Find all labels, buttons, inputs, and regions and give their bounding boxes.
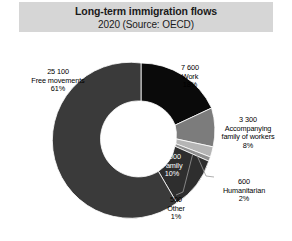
slice-percent-accompanying-family: 8% — [206, 142, 290, 151]
slice-label-family: 4 000 Family 10% — [150, 153, 194, 179]
slice-percent-humanitarian: 2% — [212, 195, 276, 204]
slice-label-other: 500 Other 1% — [154, 196, 198, 222]
slice-percent-family: 10% — [150, 170, 194, 179]
slice-percent-work: 18% — [160, 81, 220, 90]
slice-label-humanitarian: 600 Humanitarian 2% — [212, 178, 276, 204]
chart-figure: Long-term immigration flows 2020 (Source… — [0, 0, 292, 241]
slice-label-accompanying-family: 3 300 Accompanying family of workers 8% — [206, 116, 290, 150]
slice-label-free-movements: 25 100 Free movements 61% — [12, 68, 104, 94]
slice-percent-other: 1% — [154, 213, 198, 222]
slice-label-work: 7 600 Work 18% — [160, 64, 220, 90]
slice-percent-free-movements: 61% — [12, 85, 104, 94]
